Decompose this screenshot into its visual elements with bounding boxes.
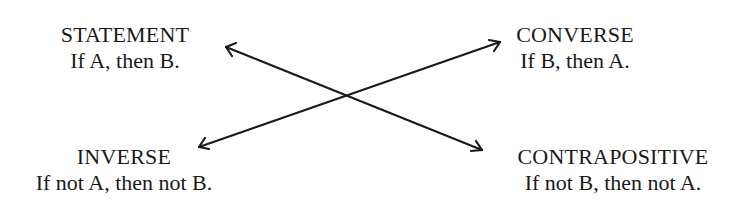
double-arrow-inverse-converse <box>199 40 500 149</box>
arrows-layer <box>0 0 742 208</box>
double-arrow-statement-contrapositive <box>226 43 482 151</box>
